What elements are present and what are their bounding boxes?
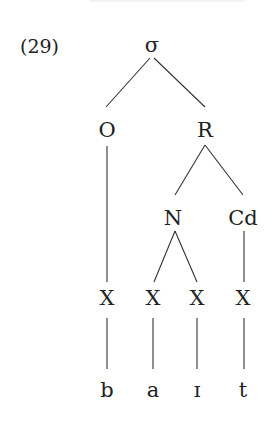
- timing-slot-x: X: [236, 286, 251, 310]
- tree-edge: [175, 145, 205, 195]
- nucleus-node: N: [164, 206, 182, 230]
- onset-node: O: [98, 118, 115, 142]
- tree-edge: [106, 58, 150, 107]
- segment-small-capital-i: ɪ: [194, 378, 201, 402]
- syllable-node: σ: [145, 33, 159, 57]
- segment-b: b: [100, 378, 113, 402]
- tree-edge: [205, 145, 243, 195]
- timing-slot-x: X: [100, 286, 115, 310]
- coda-node: Cd: [228, 206, 258, 230]
- segment-t: t: [239, 378, 248, 402]
- segment-a: a: [147, 378, 160, 402]
- rhyme-node: R: [197, 118, 214, 142]
- tree-edge: [154, 58, 205, 107]
- syllable-tree-diagram: (29) σ O R N Cd X X X X b a ɪ t: [0, 0, 278, 421]
- tree-edge: [154, 231, 175, 282]
- example-number: (29): [20, 35, 59, 57]
- timing-slot-x: X: [146, 286, 161, 310]
- timing-slot-x: X: [190, 286, 205, 310]
- tree-edge: [175, 231, 197, 282]
